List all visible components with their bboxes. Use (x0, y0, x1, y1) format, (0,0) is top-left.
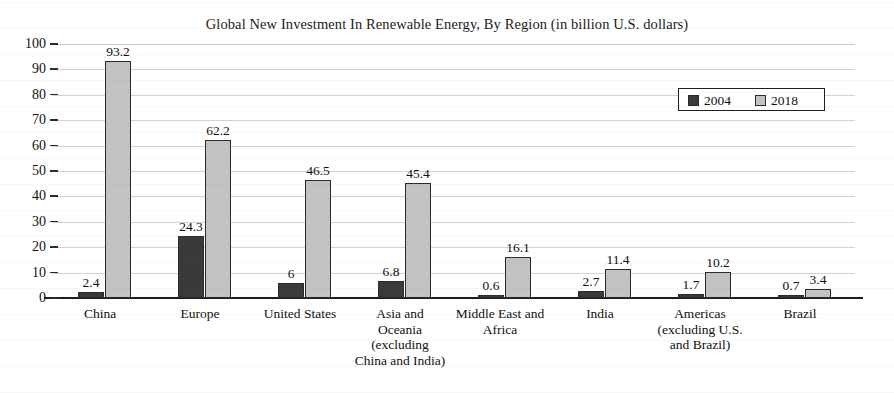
bar-value-label: 46.5 (290, 164, 346, 178)
x-axis-baseline (44, 297, 863, 299)
bar-value-label: 45.4 (390, 167, 446, 181)
bar-2004[interactable] (778, 295, 804, 298)
bar-2004[interactable] (78, 292, 104, 298)
bar-2018[interactable] (405, 183, 431, 298)
y-axis-tick-label: 90 (12, 62, 46, 76)
bar-value-label: 3.4 (790, 273, 846, 287)
y-axis-tick-label: 10 (12, 266, 46, 280)
bar-2018[interactable] (505, 257, 531, 298)
bar-2018[interactable] (705, 272, 731, 298)
category-label-line: China and India) (334, 353, 466, 369)
y-axis-tick-mark (50, 119, 58, 121)
bar-2004[interactable] (678, 294, 704, 298)
bar-value-label: 62.2 (190, 124, 246, 138)
bar-2004[interactable] (278, 283, 304, 298)
category-label-line: and Brazil) (634, 337, 766, 353)
bar-value-label: 11.4 (590, 253, 646, 267)
legend-item-2018[interactable]: 2018 (755, 92, 798, 108)
bar-2004[interactable] (378, 281, 404, 298)
category-label-line: Africa (434, 322, 566, 338)
y-axis-tick-mark (50, 94, 58, 96)
y-axis-tick-mark (50, 297, 58, 299)
bar-2018[interactable] (805, 289, 831, 298)
chart-legend: 2004 2018 (678, 88, 825, 111)
bar-2004[interactable] (178, 236, 204, 298)
bar-group: 24.362.2 (168, 44, 232, 298)
legend-label-2018: 2018 (771, 94, 798, 107)
y-axis-tick-mark (50, 170, 58, 172)
bar-chart: Global New Investment In Renewable Energ… (0, 0, 894, 393)
y-axis-tick-mark (50, 195, 58, 197)
bar-value-label: 93.2 (90, 45, 146, 59)
legend-swatch-2004 (688, 95, 699, 106)
y-axis-tick-label: 20 (12, 240, 46, 254)
y-axis-tick-label: 30 (12, 215, 46, 229)
bar-2018[interactable] (605, 269, 631, 298)
bar-value-label: 16.1 (490, 241, 546, 255)
legend-swatch-2018 (755, 95, 766, 106)
category-label-line: (excluding U.S. (634, 322, 766, 338)
y-axis-tick-mark (50, 68, 58, 70)
y-axis-tick-label: 100 (12, 37, 46, 51)
category-label-line: (excluding (334, 337, 466, 353)
y-axis-tick-label: 50 (12, 164, 46, 178)
bar-2018[interactable] (105, 61, 131, 298)
bar-2018[interactable] (205, 140, 231, 298)
legend-label-2004: 2004 (704, 94, 731, 107)
y-axis-tick-label: 0 (12, 291, 46, 305)
y-axis-tick-label: 60 (12, 139, 46, 153)
bar-2018[interactable] (305, 180, 331, 298)
bar-group: 646.5 (268, 44, 332, 298)
bar-2004[interactable] (578, 291, 604, 298)
legend-item-2004[interactable]: 2004 (688, 92, 731, 108)
x-axis-category-label: Brazil (734, 306, 866, 322)
chart-title: Global New Investment In Renewable Energ… (0, 16, 894, 33)
bar-group: 1.710.2 (668, 44, 732, 298)
y-axis-tick-mark (50, 272, 58, 274)
bar-value-label: 10.2 (690, 256, 746, 270)
y-axis-tick-mark (50, 221, 58, 223)
bar-2004[interactable] (478, 295, 504, 298)
y-axis-tick-mark (50, 43, 58, 45)
y-axis-tick-mark (50, 145, 58, 147)
y-axis-tick-label: 40 (12, 189, 46, 203)
bar-group: 0.73.4 (768, 44, 832, 298)
bar-group: 6.845.4 (368, 44, 432, 298)
y-axis-tick-label: 70 (12, 113, 46, 127)
category-label-line: Brazil (734, 306, 866, 322)
bar-group: 2.493.2 (68, 44, 132, 298)
y-axis-tick-mark (50, 246, 58, 248)
bar-group: 2.711.4 (568, 44, 632, 298)
y-axis-tick-label: 80 (12, 88, 46, 102)
bar-group: 0.616.1 (468, 44, 532, 298)
